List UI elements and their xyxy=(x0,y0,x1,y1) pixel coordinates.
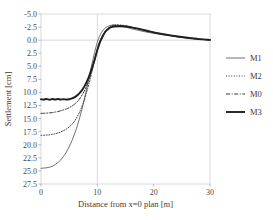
x-tick-label: 10 xyxy=(93,188,101,197)
legend-label-m2: M2 xyxy=(250,71,262,81)
y-tick-label: 2.5 xyxy=(27,49,37,58)
y-tick-label: 10.0 xyxy=(23,88,37,97)
y-tick-label: -2.5 xyxy=(24,23,37,32)
x-tick-label: 30 xyxy=(206,188,214,197)
y-tick-label: 17.5 xyxy=(23,128,37,137)
y-tick-label: 0.0 xyxy=(27,36,37,45)
settlement-line-chart: -5.0-2.50.02.55.07.510.012.515.017.520.0… xyxy=(0,0,273,220)
y-axis-title: Settlement [cm] xyxy=(3,72,13,127)
legend-label-m0: M0 xyxy=(250,89,262,99)
x-tick-label: 20 xyxy=(150,188,158,197)
y-tick-label: 20.0 xyxy=(23,141,37,150)
y-tick-label: -5.0 xyxy=(24,10,37,19)
y-tick-label: 25.0 xyxy=(23,167,37,176)
y-tick-label: 27.5 xyxy=(23,180,37,189)
x-axis-title: Distance from x=0 plan [m] xyxy=(78,199,173,209)
legend-label-m3: M3 xyxy=(250,107,262,117)
y-tick-label: 15.0 xyxy=(23,115,37,124)
y-tick-label: 22.5 xyxy=(23,154,37,163)
y-tick-label: 5.0 xyxy=(27,62,37,71)
legend-label-m1: M1 xyxy=(250,53,262,63)
chart-figure: -5.0-2.50.02.55.07.510.012.515.017.520.0… xyxy=(0,0,273,220)
y-tick-label: 7.5 xyxy=(27,75,37,84)
x-tick-label: 0 xyxy=(39,188,43,197)
y-tick-label: 12.5 xyxy=(23,101,37,110)
